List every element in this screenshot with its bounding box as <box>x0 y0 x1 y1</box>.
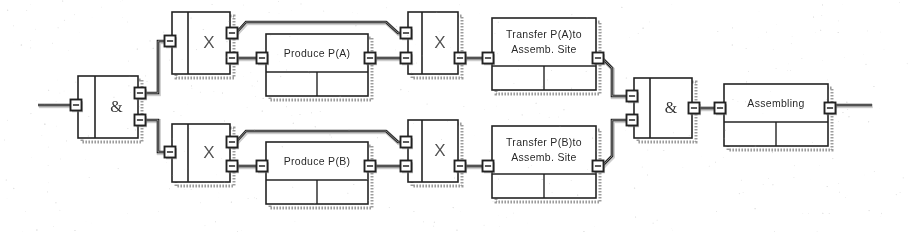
block-label: X <box>203 143 214 162</box>
diagram-canvas: &XProduce P(A)XTransfer P(A)toAssemb. Si… <box>0 0 908 232</box>
block-produce-pa[interactable]: Produce P(A) <box>266 34 372 100</box>
connector-port-produce-b-out[interactable] <box>365 161 378 174</box>
connector-port-and-left-out-b[interactable] <box>135 115 148 128</box>
connector-port-xa2-out[interactable] <box>455 53 468 66</box>
connector-port-assembling-out[interactable] <box>825 103 838 116</box>
connector-port-and-right-in-b[interactable] <box>627 115 640 128</box>
block-label: & <box>110 98 123 115</box>
connector-port-transfer-a-in[interactable] <box>483 53 496 66</box>
connector-port-xb1-out-bot[interactable] <box>227 161 240 174</box>
connector-port-assembling-in[interactable] <box>715 103 728 116</box>
connector-port-xa1-out-bot[interactable] <box>227 53 240 66</box>
connector-port-transfer-a-out[interactable] <box>593 53 606 66</box>
connector-port-xa2-in-top[interactable] <box>401 28 414 41</box>
block-transfer-pa[interactable]: Transfer P(A)toAssemb. Site <box>492 18 600 94</box>
block-and-gate-left[interactable]: & <box>78 76 142 142</box>
connector-port-xa1-in[interactable] <box>165 36 178 49</box>
connector-port-xb2-in-bot[interactable] <box>401 161 414 174</box>
connector-port-xa2-in-bot[interactable] <box>401 53 414 66</box>
function-block-diagram: &XProduce P(A)XTransfer P(A)toAssemb. Si… <box>0 0 908 232</box>
block-x-transition-b1[interactable]: X <box>172 124 234 186</box>
connector-port-xb1-in[interactable] <box>165 147 178 160</box>
block-x-transition-a1[interactable]: X <box>172 12 234 78</box>
connector-port-produce-a-in[interactable] <box>257 53 270 66</box>
connector-port-xa1-out-top[interactable] <box>227 28 240 41</box>
connector-port-xb2-out[interactable] <box>455 161 468 174</box>
block-label-line2: Assemb. Site <box>511 151 576 163</box>
block-label: X <box>434 33 445 52</box>
connector-port-and-right-out[interactable] <box>689 103 702 116</box>
block-assembling[interactable]: Assembling <box>724 84 832 150</box>
connector-port-produce-a-out[interactable] <box>365 53 378 66</box>
block-x-transition-b2[interactable]: X <box>408 120 462 186</box>
connector-port-and-right-in-a[interactable] <box>627 91 640 104</box>
block-label: Produce P(B) <box>284 155 351 167</box>
connection-conn-main-output <box>834 105 873 106</box>
connector-port-transfer-b-in[interactable] <box>483 161 496 174</box>
block-body <box>634 78 692 138</box>
block-x-transition-a2[interactable]: X <box>408 12 462 78</box>
block-label-line2: Assemb. Site <box>511 43 576 55</box>
block-body <box>408 12 458 74</box>
block-label: Transfer P(A)to <box>506 28 582 40</box>
connector-port-xb2-in-top[interactable] <box>401 137 414 150</box>
connector-port-transfer-b-out[interactable] <box>593 161 606 174</box>
block-label: X <box>434 141 445 160</box>
block-and-gate-right[interactable]: & <box>634 78 696 142</box>
block-body <box>172 124 230 182</box>
block-label: Transfer P(B)to <box>506 136 582 148</box>
connector-port-xb1-out-top[interactable] <box>227 137 240 150</box>
block-label: Produce P(A) <box>284 47 351 59</box>
connector-port-produce-b-in[interactable] <box>257 161 270 174</box>
block-transfer-pb[interactable]: Transfer P(B)toAssemb. Site <box>492 126 600 202</box>
connector-port-input-main[interactable] <box>71 100 84 113</box>
connection-conn-main-input <box>38 105 75 106</box>
block-body <box>172 12 230 74</box>
connector-port-and-left-out-a[interactable] <box>135 88 148 101</box>
block-label: X <box>203 33 214 52</box>
block-label: & <box>665 99 678 116</box>
block-produce-pb[interactable]: Produce P(B) <box>266 142 372 208</box>
block-label: Assembling <box>747 97 804 109</box>
block-body <box>408 120 458 182</box>
